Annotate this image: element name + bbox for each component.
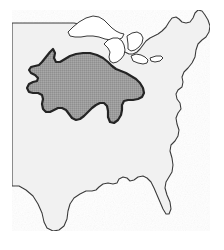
map-figure: Upper Midwest / Corn Belt [0, 0, 224, 250]
map-canvas [0, 0, 224, 250]
